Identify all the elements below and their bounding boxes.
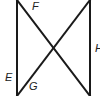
- label-f: F: [32, 0, 40, 12]
- label-h: H: [95, 42, 100, 54]
- geometry-diagram: F E G H: [0, 0, 100, 96]
- label-e: E: [5, 71, 13, 83]
- label-g: G: [29, 80, 38, 92]
